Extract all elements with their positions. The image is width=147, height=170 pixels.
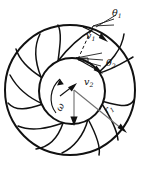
impeller-diagram-figure: θ1 θ2 v1 v2 ω r1 bbox=[0, 0, 147, 170]
theta2-label: θ2 bbox=[106, 57, 116, 69]
blade-5 bbox=[8, 103, 43, 109]
blade-7 bbox=[58, 25, 60, 61]
blade-4-trailing bbox=[18, 123, 63, 129]
blade-6-trailing bbox=[36, 34, 41, 77]
impeller-svg: θ1 θ2 v1 v2 ω r1 bbox=[0, 0, 147, 170]
theta1-label: θ1 bbox=[112, 7, 122, 19]
